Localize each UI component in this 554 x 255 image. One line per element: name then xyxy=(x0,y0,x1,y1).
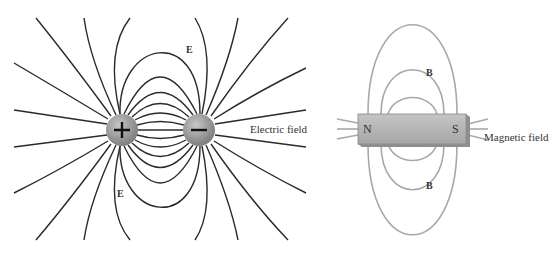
magnetic-field-symbol-top: B xyxy=(426,67,433,78)
electric-field-caption: Electric field xyxy=(250,123,307,135)
south-pole-label: S xyxy=(452,122,459,137)
electric-field-symbol-bottom: E xyxy=(117,188,124,199)
negative-charge xyxy=(183,114,215,146)
magnetic-field-symbol-bottom: B xyxy=(426,180,433,191)
north-pole-label: N xyxy=(363,122,372,137)
positive-charge xyxy=(106,114,138,146)
magnetic-field-caption: Magnetic field xyxy=(484,131,548,143)
electric-field-symbol-top: E xyxy=(186,44,193,55)
